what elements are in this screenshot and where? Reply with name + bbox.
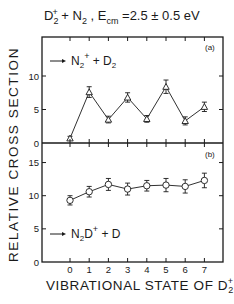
svg-text:3: 3 — [125, 264, 130, 275]
svg-text:6: 6 — [183, 264, 188, 275]
svg-text:1: 1 — [87, 264, 92, 275]
svg-text:0: 0 — [34, 138, 39, 149]
chart-figure: 0510(a)N2+ + D2 051015(b)N2D+ + D 012345… — [0, 0, 234, 304]
panel-a: 0510(a)N2+ + D2 — [28, 43, 223, 149]
svg-text:5: 5 — [34, 104, 39, 115]
svg-text:10: 10 — [28, 71, 39, 82]
svg-text:N2D+ + D: N2D+ + D — [71, 224, 121, 243]
panel-b: 051015(b)N2D+ + D — [28, 150, 223, 268]
svg-text:10: 10 — [28, 190, 39, 201]
svg-text:0: 0 — [67, 264, 72, 275]
svg-text:5: 5 — [34, 223, 39, 234]
svg-text:4: 4 — [144, 264, 149, 275]
svg-text:0: 0 — [34, 257, 39, 268]
svg-text:(a): (a) — [205, 43, 215, 52]
svg-text:2: 2 — [106, 264, 111, 275]
svg-text:N2+ + D2: N2+ + D2 — [71, 51, 117, 70]
svg-text:5: 5 — [163, 264, 168, 275]
svg-text:(b): (b) — [205, 150, 215, 159]
plot-frame — [42, 37, 223, 262]
svg-text:15: 15 — [28, 157, 39, 168]
svg-text:7: 7 — [202, 264, 207, 275]
